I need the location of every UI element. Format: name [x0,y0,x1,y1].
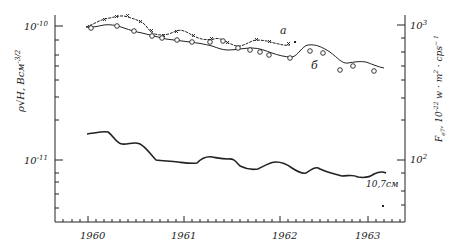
bottom-ticks [63,216,400,222]
axis-label-text: ρ√H, Вcм [15,63,26,112]
right-tick-bottom: 102 [410,153,427,165]
x-tick-1963: 1963 [355,230,380,241]
axis-label-text: F [434,136,444,142]
left-ticks [55,26,63,208]
series-a-label: a [280,24,287,37]
tick-base: 10 [24,155,37,166]
right-ticks [397,25,405,205]
x-tick-1961: 1961 [171,230,196,241]
tick-exp: -11 [37,154,48,162]
axis-label-sub: e7 [439,128,446,135]
left-tick-bottom: 10-11 [24,154,48,166]
right-axis-label: Fe7, 10-22 w · m2 · cps− 1 [432,35,446,142]
tick-base: 10 [410,154,423,165]
x-tick-1962: 1962 [272,230,297,241]
tick-base: 10 [24,21,37,32]
chart-canvas [0,0,459,249]
left-axis-label: ρ√H, Вcм-3/2 [14,50,26,112]
tick-exp: -10 [37,20,48,28]
series-b [86,24,384,74]
axes [55,15,405,222]
axis-label-text: , 10 [434,111,444,128]
axis-label-exp: -3/2 [14,50,22,64]
tick-base: 10 [410,20,423,31]
x-tick-1960: 1960 [80,230,105,241]
axis-label-exp: − 1 [432,35,439,46]
series-10-7cm-label: 10,7см [366,179,399,189]
axis-label-exp: -22 [432,102,439,112]
series-b-label: б [311,59,318,72]
series-10-7cm [87,132,386,178]
axis-label-units: · cps [434,46,444,70]
stray-dot [382,205,384,207]
left-tick-top: 10-10 [24,20,48,32]
axis-label-exp: 2 [432,70,439,74]
tick-exp: 3 [423,19,427,27]
axis-label-units: w · m [434,74,444,102]
right-tick-top: 103 [410,19,427,31]
tick-exp: 2 [423,153,427,161]
